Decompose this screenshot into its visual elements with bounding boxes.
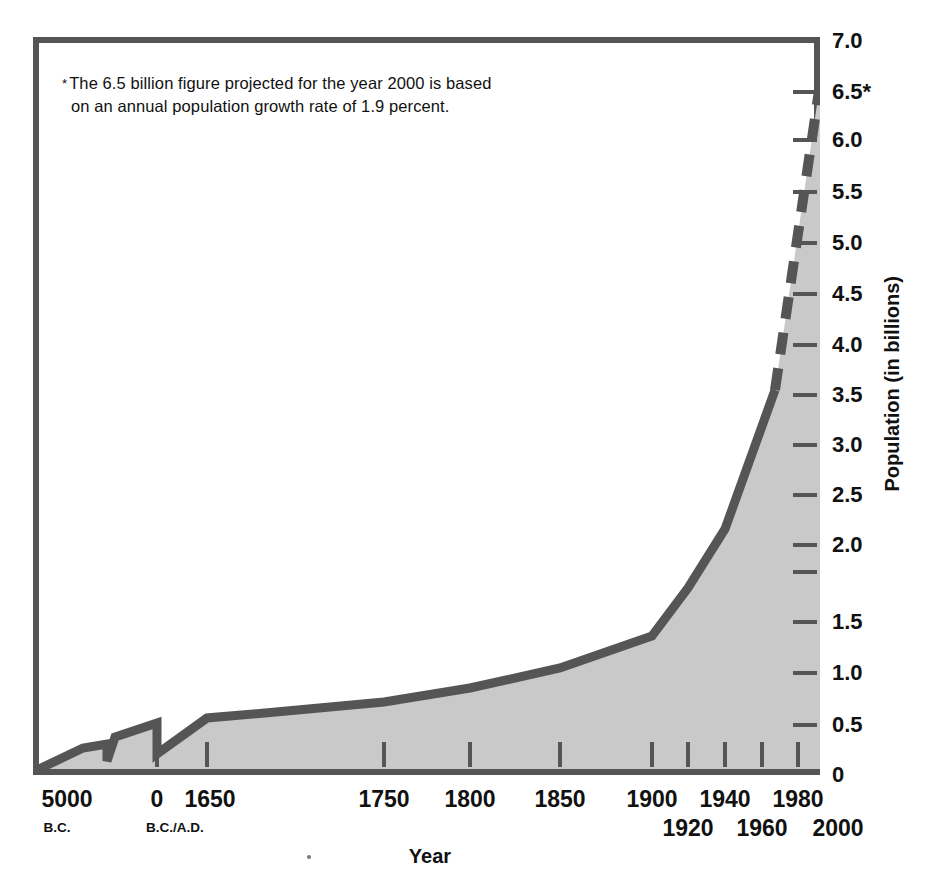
x-tick-label-0: 0 — [151, 786, 164, 813]
x-tick-label-1900: 1900 — [626, 786, 677, 813]
x-tick-label-1850: 1850 — [534, 786, 585, 813]
page-speck — [307, 855, 311, 859]
x-tick-label-1920: 1920 — [662, 815, 713, 842]
x-tick-label-1960: 1960 — [736, 815, 787, 842]
x-tick-label-1800: 1800 — [444, 786, 495, 813]
x-tick-label-1650: 1650 — [184, 786, 235, 813]
x-tick-label-2000: 2000 — [812, 815, 863, 842]
y-axis-title: Population (in billions) — [881, 276, 904, 492]
population-chart: *The 6.5 billion figure projected for th… — [0, 0, 933, 881]
x-tick-label-5000: 5000 — [41, 786, 92, 813]
x-axis-labels: 5000 0 1650 1750 1800 1850 1900 1940 198… — [0, 0, 933, 881]
x-sublabel-bc: B.C. — [44, 820, 71, 835]
x-axis-title: Year — [409, 845, 451, 868]
x-tick-label-1940: 1940 — [699, 786, 750, 813]
x-tick-label-1750: 1750 — [358, 786, 409, 813]
x-sublabel-bc-ad: B.C./A.D. — [146, 820, 204, 835]
x-tick-label-1980: 1980 — [772, 786, 823, 813]
